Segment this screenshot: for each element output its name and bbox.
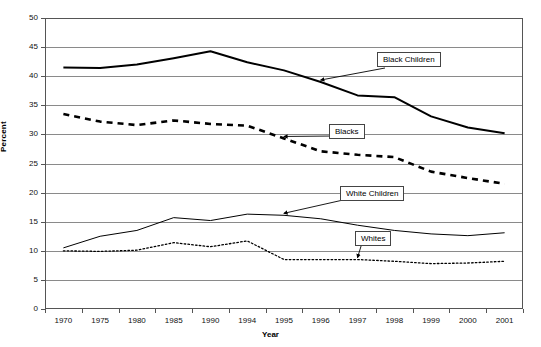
x-tick-mark: [339, 309, 340, 313]
x-tick-mark: [155, 309, 156, 313]
y-tick-label: 35: [0, 101, 38, 109]
x-tick-mark: [413, 309, 414, 313]
gridline: [46, 222, 522, 223]
y-tick-mark: [41, 47, 45, 48]
annotation-black-children[interactable]: Black Children: [377, 52, 441, 67]
x-tick-label: 1990: [190, 317, 230, 325]
y-tick-label: 15: [0, 218, 38, 226]
y-tick-mark: [41, 164, 45, 165]
y-tick-label: 10: [0, 247, 38, 255]
x-tick-label: 1997: [338, 317, 378, 325]
y-axis-title: Percent: [0, 121, 8, 152]
line-chart-figure: 50454035302520151050 Percent 19701975198…: [0, 0, 541, 347]
y-tick-label: 0: [0, 305, 38, 313]
gridline: [46, 47, 522, 48]
x-tick-label: 1970: [43, 317, 83, 325]
gridline: [46, 251, 522, 252]
annotation-white-children[interactable]: White Children: [340, 186, 404, 201]
y-tick-mark: [41, 193, 45, 194]
gridline: [46, 280, 522, 281]
x-tick-mark: [192, 309, 193, 313]
x-tick-label: 1985: [154, 317, 194, 325]
plot-area: [45, 18, 523, 309]
gridline: [46, 105, 522, 106]
y-tick-mark: [41, 76, 45, 77]
x-tick-label: 1994: [227, 317, 267, 325]
x-tick-mark: [266, 309, 267, 313]
y-tick-mark: [41, 134, 45, 135]
y-tick-label: 40: [0, 72, 38, 80]
y-tick-label: 20: [0, 189, 38, 197]
gridline: [46, 134, 522, 135]
x-tick-mark: [229, 309, 230, 313]
y-tick-mark: [41, 280, 45, 281]
x-tick-mark: [82, 309, 83, 313]
y-tick-label: 50: [0, 14, 38, 22]
x-tick-label: 1999: [411, 317, 451, 325]
annotation-whites[interactable]: Whites: [355, 231, 391, 246]
y-tick-label: 25: [0, 160, 38, 168]
gridline: [46, 193, 522, 194]
y-tick-mark: [41, 251, 45, 252]
y-tick-mark: [41, 222, 45, 223]
y-tick-label: 5: [0, 276, 38, 284]
x-tick-mark: [523, 309, 524, 313]
x-tick-label: 1998: [374, 317, 414, 325]
x-tick-label: 2000: [448, 317, 488, 325]
x-tick-label: 1995: [264, 317, 304, 325]
x-tick-label: 1996: [301, 317, 341, 325]
x-tick-label: 2001: [485, 317, 525, 325]
x-tick-mark: [376, 309, 377, 313]
y-tick-label: 45: [0, 43, 38, 51]
x-tick-mark: [449, 309, 450, 313]
x-tick-label: 1980: [117, 317, 157, 325]
annotation-blacks[interactable]: Blacks: [329, 124, 365, 139]
x-tick-mark: [486, 309, 487, 313]
x-axis-title: Year: [0, 330, 541, 339]
gridline: [46, 164, 522, 165]
x-tick-mark: [119, 309, 120, 313]
x-tick-label: 1975: [80, 317, 120, 325]
gridline: [46, 76, 522, 77]
y-tick-mark: [41, 105, 45, 106]
y-tick-mark: [41, 18, 45, 19]
x-tick-mark: [302, 309, 303, 313]
x-tick-mark: [45, 309, 46, 313]
